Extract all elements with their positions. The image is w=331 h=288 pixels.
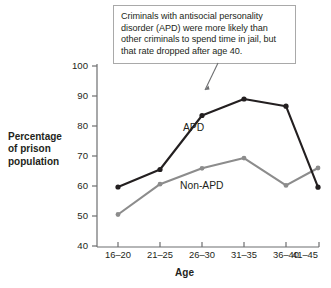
x-axis-ticks [118,242,319,247]
chart-container: Criminals with antisocial personality di… [0,0,331,288]
plot-area [0,0,331,288]
y-axis-ticks [92,66,97,246]
series-label-nonapd: Non-APD [180,180,224,191]
series-line-apd [118,99,318,187]
annotation-pointer-line [205,63,218,90]
series-label-apd: APD [183,122,204,133]
